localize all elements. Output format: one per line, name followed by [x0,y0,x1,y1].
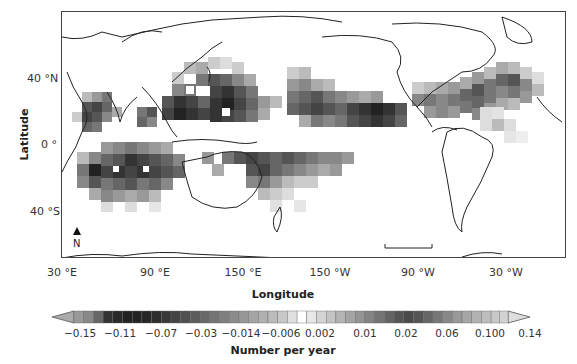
colorbar-label: −0.15 [64,327,96,339]
x-tick-30w: 30 °W [489,266,523,279]
colorbar-label: 0.01 [353,327,376,339]
heatmap-cells-enp [287,67,407,127]
colorbar-label: −0.03 [185,327,217,339]
heatmap-cells-north-atlantic [412,62,544,120]
colorbar-label: −0.014 [222,327,261,339]
colorbar-label: −0.11 [104,327,136,339]
scale-bar [385,244,432,248]
x-axis-title: Longitude [252,288,314,301]
colorbar-extend-high [508,311,530,323]
colorbar-label: 0.14 [518,327,541,339]
x-tick-90e: 90 °E [140,266,170,279]
heatmap-cells-wnp [162,57,282,122]
y-tick-0: 0 ° [41,138,57,151]
y-tick-40s: 40 °S [30,205,60,218]
heatmap-cells-south-indian [77,142,185,212]
colorbar-label: 0.02 [394,327,417,339]
north-label: N [73,238,80,249]
x-tick-90w: 90 °W [401,266,435,279]
heatmap-grid [62,12,566,258]
colorbar-label: −0.07 [145,327,177,339]
colorbar-label: 0.06 [435,327,458,339]
colorbar [52,309,530,325]
heatmap-cells-south-atlantic [480,107,528,143]
colorbar-label: 0.002 [305,327,335,339]
coastlines [62,16,562,258]
x-tick-150w: 150 °W [310,266,351,279]
y-axis-title: Latitude [18,105,31,165]
colorbar-extend-low [52,311,74,323]
x-tick-150e: 150 °E [225,266,262,279]
colorbar-title: Number per year [230,344,335,357]
heatmap-cells-south-pacific [202,152,354,212]
map-plot-area: N [61,11,566,258]
y-tick-40n: 40 °N [27,72,58,85]
colorbar-label: −0.006 [262,327,301,339]
north-arrow-icon [73,227,81,235]
colorbar-label: 0.100 [475,327,505,339]
x-tick-30e: 30 °E [47,266,77,279]
colorbar-swatches [74,311,508,323]
